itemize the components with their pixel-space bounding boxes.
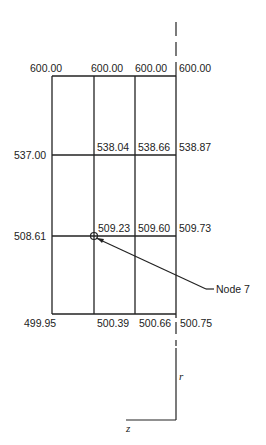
node-label: 500.75 — [180, 317, 212, 329]
node-label: 508.61 — [14, 230, 46, 242]
callout-label: Node 7 — [216, 283, 250, 295]
node-label: 600.00 — [179, 62, 211, 74]
node-label: 509.23 — [98, 222, 130, 234]
node-label: 537.00 — [14, 149, 46, 161]
callout-leader — [96, 238, 214, 289]
node-label: 538.66 — [138, 141, 170, 153]
mesh-grid — [52, 76, 176, 318]
r-axis-label: r — [179, 370, 184, 382]
node-label: 538.87 — [179, 141, 211, 153]
node-label: 509.60 — [138, 222, 170, 234]
node-label: 600.00 — [135, 62, 167, 74]
node-label: 600.00 — [30, 62, 62, 74]
node-label: 538.04 — [97, 141, 129, 153]
node-label: 500.66 — [139, 317, 171, 329]
node-label: 600.00 — [91, 62, 123, 74]
arrowhead-icon — [97, 238, 104, 243]
node-label: 509.73 — [179, 222, 211, 234]
z-axis-label: z — [125, 422, 131, 434]
node-label: 499.95 — [24, 317, 56, 329]
temperature-grid-diagram: Node 7 600.00 600.00 600.00 600.00 537.0… — [0, 0, 266, 445]
node-label: 500.39 — [97, 317, 129, 329]
